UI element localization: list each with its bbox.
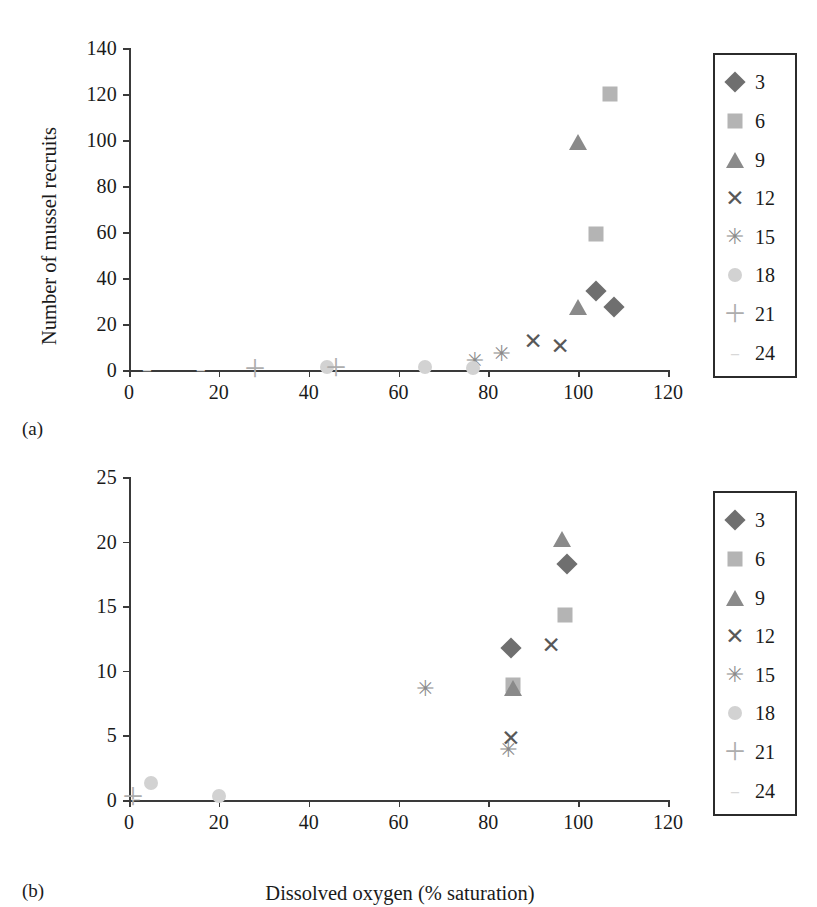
legend-a: 369✕12✳1518＋21–24 xyxy=(713,53,797,378)
y-tick-label-a: 40 xyxy=(63,268,117,288)
data-point-21: ＋ xyxy=(324,356,348,380)
data-point-6 xyxy=(557,608,572,623)
legend-label-3: 3 xyxy=(755,510,765,530)
data-point-3 xyxy=(603,296,624,317)
y-tick-b xyxy=(123,735,130,737)
y-axis-line-b xyxy=(129,477,131,800)
legend-item-21[interactable]: ＋21 xyxy=(715,735,795,769)
data-point-6 xyxy=(602,87,617,102)
legend-marker-diamond-icon xyxy=(724,72,745,93)
legend-label-24: 24 xyxy=(755,781,775,801)
legend-item-21[interactable]: ＋21 xyxy=(715,297,795,331)
data-point-15: ✳ xyxy=(499,739,517,761)
legend-item-15[interactable]: ✳15 xyxy=(715,220,795,254)
legend-marker-circle-icon xyxy=(728,706,742,720)
legend-marker-plus-icon: ＋ xyxy=(723,740,747,764)
legend-b: 369✕12✳1518＋21–24 xyxy=(713,491,797,816)
legend-marker-square-icon xyxy=(728,551,743,566)
legend-label-21: 21 xyxy=(755,742,775,762)
y-tick-label-b: 25 xyxy=(63,467,117,487)
y-tick-label-a: 0 xyxy=(63,360,117,380)
legend-marker-plus-icon: ＋ xyxy=(715,299,755,329)
y-tick-label-a: 120 xyxy=(63,84,117,104)
x-tick-a xyxy=(309,370,311,377)
legend-marker-star-icon: ✳ xyxy=(715,222,755,252)
y-tick-b xyxy=(123,671,130,673)
x-tick-a xyxy=(129,370,131,377)
plot-area-b: 0510152025020406080100120✕✕✳✳＋– xyxy=(0,452,817,907)
y-axis-label-a: Number of mussel recruits xyxy=(38,127,61,345)
legend-marker-diamond-icon xyxy=(724,510,745,531)
legend-marker-square-icon xyxy=(715,106,755,136)
y-tick-a xyxy=(123,94,130,96)
legend-label-12: 12 xyxy=(755,626,775,646)
y-tick-a xyxy=(123,278,130,280)
legend-marker-triangle-icon xyxy=(726,590,744,606)
x-tick-label-b: 0 xyxy=(99,812,159,832)
panel-caption-a: (a) xyxy=(22,418,43,440)
legend-label-18: 18 xyxy=(755,265,775,285)
y-tick-label-a: 60 xyxy=(63,222,117,242)
legend-item-24[interactable]: –24 xyxy=(715,336,795,370)
data-point-15: ✳ xyxy=(416,678,434,700)
legend-label-12: 12 xyxy=(755,188,775,208)
x-tick-label-b: 20 xyxy=(189,812,249,832)
x-tick-a xyxy=(668,370,670,377)
legend-item-6[interactable]: 6 xyxy=(715,542,795,576)
x-tick-label-b: 40 xyxy=(279,812,339,832)
legend-item-6[interactable]: 6 xyxy=(715,104,795,138)
y-tick-label-b: 0 xyxy=(63,790,117,810)
legend-item-18[interactable]: 18 xyxy=(715,258,795,292)
legend-item-24[interactable]: –24 xyxy=(715,774,795,808)
x-tick-label-a: 20 xyxy=(189,382,249,402)
legend-marker-star-icon: ✳ xyxy=(715,660,755,690)
plot-area-a: 020406080100120140020406080100120✕✕✳✳＋＋–… xyxy=(0,0,817,455)
y-tick-a xyxy=(123,324,130,326)
legend-marker-circle-icon xyxy=(715,260,755,290)
y-tick-a xyxy=(123,48,130,50)
legend-marker-star-icon: ✳ xyxy=(726,226,744,248)
data-point-12: ✕ xyxy=(551,334,570,357)
legend-item-3[interactable]: 3 xyxy=(715,503,795,537)
x-tick-label-a: 80 xyxy=(458,382,518,402)
y-tick-label-a: 140 xyxy=(63,38,117,58)
legend-item-3[interactable]: 3 xyxy=(715,65,795,99)
legend-item-9[interactable]: 9 xyxy=(715,143,795,177)
data-point-15: ✳ xyxy=(493,343,511,365)
legend-item-9[interactable]: 9 xyxy=(715,581,795,615)
x-tick-label-b: 120 xyxy=(638,812,698,832)
x-axis-label: Dissolved oxygen (% saturation) xyxy=(130,882,670,905)
legend-marker-triangle-icon xyxy=(726,152,744,168)
x-tick-a xyxy=(578,370,580,377)
legend-marker-dash-icon: – xyxy=(730,781,740,801)
legend-marker-dash-icon: – xyxy=(730,343,740,363)
data-point-3 xyxy=(556,553,577,574)
y-tick-a xyxy=(123,232,130,234)
data-point-3 xyxy=(586,280,607,301)
y-tick-label-b: 20 xyxy=(63,532,117,552)
legend-marker-plus-icon: ＋ xyxy=(723,302,747,326)
panel-caption-b: (b) xyxy=(22,880,44,902)
legend-marker-square-icon xyxy=(715,544,755,574)
legend-marker-x-icon: ✕ xyxy=(725,625,744,648)
y-tick-label-a: 100 xyxy=(63,130,117,150)
legend-item-15[interactable]: ✳15 xyxy=(715,658,795,692)
legend-item-18[interactable]: 18 xyxy=(715,696,795,730)
legend-label-15: 15 xyxy=(755,227,775,247)
data-point-18 xyxy=(418,360,432,374)
y-axis-line-a xyxy=(129,48,131,370)
panel-b: 0510152025020406080100120✕✕✳✳＋– Dissolve… xyxy=(0,452,817,907)
x-tick-b xyxy=(488,800,490,807)
data-point-18 xyxy=(144,776,158,790)
y-tick-label-a: 20 xyxy=(63,314,117,334)
x-tick-label-a: 120 xyxy=(638,382,698,402)
x-tick-label-a: 40 xyxy=(279,382,339,402)
y-tick-label-a: 80 xyxy=(63,176,117,196)
x-tick-b xyxy=(668,800,670,807)
legend-marker-square-icon xyxy=(728,113,743,128)
legend-marker-triangle-icon xyxy=(715,583,755,613)
legend-item-12[interactable]: ✕12 xyxy=(715,181,795,215)
x-tick-a xyxy=(219,370,221,377)
legend-item-12[interactable]: ✕12 xyxy=(715,619,795,653)
data-point-24: – xyxy=(142,359,152,379)
